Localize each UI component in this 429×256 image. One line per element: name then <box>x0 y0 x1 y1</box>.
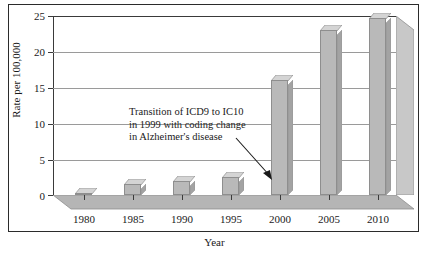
y-axis: 25 20 15 10 5 0 <box>0 16 53 196</box>
bar-side-face <box>141 184 146 195</box>
annotation-line-2: in 1999 with coding change <box>129 119 246 132</box>
annotation-line-3: in Alzheimer's disease <box>129 131 246 144</box>
x-tick-label-2005: 2005 <box>307 213 351 225</box>
y-tick-label-15: 15 <box>34 83 45 94</box>
bar-front-face <box>320 30 337 195</box>
chart-side-wall <box>396 16 414 195</box>
y-axis-title: Rate per 100,000 <box>10 20 22 140</box>
bar-front-face <box>369 18 386 195</box>
bar-side-face <box>337 30 342 195</box>
x-tick-mark <box>231 195 232 200</box>
bar-side-face <box>386 18 391 195</box>
x-tick-label-1985: 1985 <box>111 213 155 225</box>
bar-front-face <box>173 181 190 195</box>
y-tick-label-0: 0 <box>40 191 46 202</box>
annotation-icd-transition: Transition of ICD9 to IC10 in 1999 with … <box>129 106 246 144</box>
chart-figure: 25 20 15 10 5 0 Rate per 100,000 <box>0 0 429 256</box>
y-tick-label-5: 5 <box>40 155 46 166</box>
x-tick-mark <box>182 195 183 200</box>
x-tick-label-1980: 1980 <box>62 213 106 225</box>
x-tick-label-1990: 1990 <box>160 213 204 225</box>
x-tick-mark <box>378 195 379 200</box>
x-axis-title: Year <box>0 236 429 248</box>
x-tick-mark <box>84 195 85 200</box>
y-tick-label-10: 10 <box>34 119 45 130</box>
x-tick-mark <box>133 195 134 200</box>
bar-side-face <box>190 181 195 195</box>
x-tick-mark <box>280 195 281 200</box>
x-tick-label-2000: 2000 <box>258 213 302 225</box>
x-tick-label-1995: 1995 <box>209 213 253 225</box>
annotation-line-1: Transition of ICD9 to IC10 <box>129 106 246 119</box>
x-axis: 1980 1985 1990 1995 2000 2005 2010 <box>53 195 413 225</box>
x-tick-label-2010: 2010 <box>356 213 400 225</box>
bar-front-face <box>124 184 141 195</box>
y-tick-label-25: 25 <box>34 11 45 22</box>
annotation-arrow-icon <box>234 136 290 186</box>
x-tick-mark <box>329 195 330 200</box>
y-tick-label-20: 20 <box>34 47 45 58</box>
